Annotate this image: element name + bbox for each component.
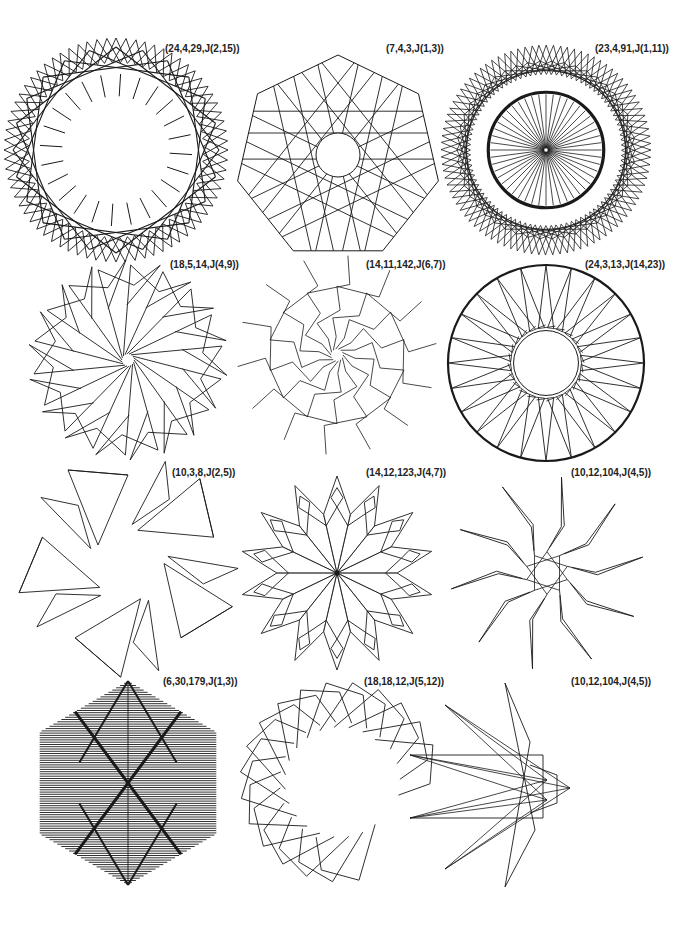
- figure-label-1: (24,4,29,J(2,15)): [165, 43, 240, 54]
- pattern-figure-1: [4, 38, 228, 262]
- figure-label-10: (6,30,179,J(1,3)): [163, 676, 238, 687]
- pattern-figure-10: [40, 681, 217, 885]
- figure-label-11: (18,18,12,J(5,12)): [364, 676, 444, 687]
- figure-label-8: (14,12,123,J(4,7)): [366, 467, 446, 478]
- pattern-figure-6: [448, 265, 644, 461]
- pattern-figure-8: [242, 476, 431, 670]
- figure-label-6: (24,3,13,J(14,23)): [585, 259, 665, 270]
- figure-label-2: (7,4,3,J(1,3)): [386, 43, 444, 54]
- figure-label-7: (10,3,8,J(2,5)): [172, 467, 235, 478]
- pattern-figure-5: [238, 256, 437, 455]
- pattern-figure-12: [410, 683, 570, 887]
- pattern-figure-3: [441, 45, 651, 255]
- figure-label-5: (14,11,142,J(6,7)): [366, 259, 446, 270]
- pattern-figure-11: [241, 683, 433, 882]
- figure-label-9: (10,12,104,J(4,5)): [571, 467, 651, 478]
- pattern-figure-4: [29, 260, 227, 460]
- pattern-figure-2: [238, 55, 439, 251]
- figure-label-3: (23,4,91,J(1,11)): [595, 43, 669, 54]
- pattern-figure-7: [19, 461, 238, 677]
- figure-label-4: (18,5,14,J(4,9)): [170, 259, 239, 270]
- pattern-figure-9: [451, 477, 642, 669]
- figure-label-12: (10,12,104,J(4,5)): [571, 676, 651, 687]
